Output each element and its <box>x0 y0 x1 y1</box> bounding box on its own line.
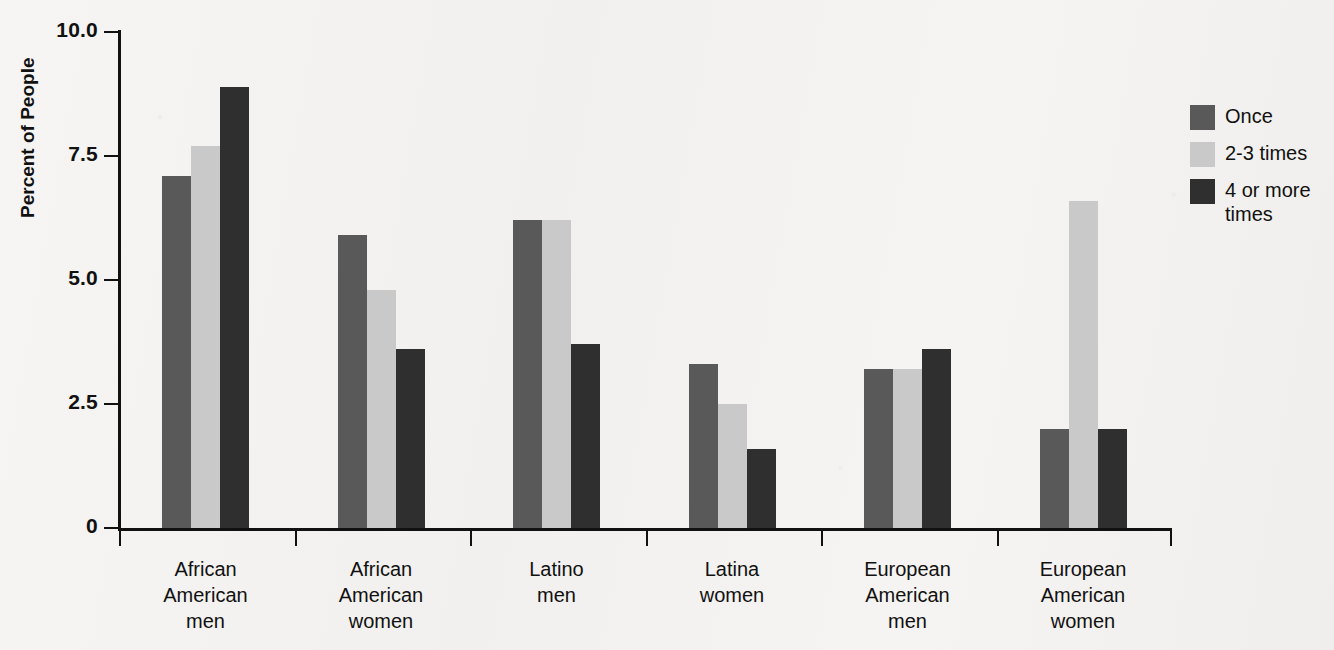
x-axis-category-label-line: Latina <box>642 556 822 582</box>
bar <box>1098 429 1127 528</box>
legend-item: 4 or more times <box>1190 178 1330 226</box>
y-axis-tick-label: 0 <box>86 514 98 538</box>
x-axis-tick <box>119 531 121 546</box>
bar <box>922 349 951 528</box>
bar <box>747 449 776 528</box>
x-axis-tick <box>470 531 472 546</box>
y-axis-tick <box>104 279 119 281</box>
x-axis-tick <box>295 531 297 546</box>
bar <box>513 220 542 528</box>
y-axis-tick-label: 5.0 <box>68 266 98 290</box>
x-axis-category-label-line: American <box>116 582 296 608</box>
bar <box>1040 429 1069 528</box>
x-axis-category-label: Latinomen <box>467 556 647 608</box>
bar <box>1069 201 1098 528</box>
legend-label: 2-3 times <box>1225 141 1307 165</box>
bar <box>542 220 571 528</box>
x-axis-category-label-line: Latino <box>467 556 647 582</box>
x-axis-category-label-line: American <box>993 582 1173 608</box>
bar-chart: Percent of People 10.07.55.02.50 African… <box>0 0 1334 650</box>
bar <box>367 290 396 528</box>
x-axis-category-label: EuropeanAmericanwomen <box>993 556 1173 634</box>
plot-area <box>120 32 1172 528</box>
legend-item: Once <box>1190 104 1330 130</box>
x-axis-category-label-line: African <box>116 556 296 582</box>
y-axis-tick-label: 7.5 <box>68 142 98 166</box>
y-axis-tick <box>104 31 119 33</box>
y-axis-tick-label: 10.0 <box>56 18 98 42</box>
bar <box>718 404 747 528</box>
x-axis-category-label-line: women <box>291 608 471 634</box>
legend-swatch-two_three <box>1190 142 1215 167</box>
x-axis-tick <box>1170 531 1172 546</box>
x-axis-category-label-line: European <box>993 556 1173 582</box>
bar <box>893 369 922 528</box>
legend-swatch-four_plus <box>1190 179 1215 204</box>
bar <box>864 369 893 528</box>
x-axis-category-label-line: African <box>291 556 471 582</box>
x-axis-category-label-line: women <box>642 582 822 608</box>
x-axis-category-label-line: men <box>467 582 647 608</box>
x-axis-category-label: EuropeanAmericanmen <box>818 556 998 634</box>
y-axis-title: Percent of People <box>17 174 39 218</box>
legend-swatch-once <box>1190 105 1215 130</box>
x-axis-category-label-line: American <box>818 582 998 608</box>
bar <box>689 364 718 528</box>
x-axis-category-label: Latinawomen <box>642 556 822 608</box>
y-axis-tick <box>104 155 119 157</box>
bar <box>220 87 249 528</box>
legend-label: Once <box>1225 104 1273 128</box>
y-axis-tick-label: 2.5 <box>68 390 98 414</box>
bar <box>571 344 600 528</box>
x-axis-category-label-line: men <box>818 608 998 634</box>
x-axis-category-label-line: women <box>993 608 1173 634</box>
x-axis-category-label: AfricanAmericanwomen <box>291 556 471 634</box>
x-axis-category-label-line: American <box>291 582 471 608</box>
x-axis-category-label: AfricanAmericanmen <box>116 556 296 634</box>
y-axis-tick <box>104 403 119 405</box>
x-axis-tick <box>997 531 999 546</box>
y-axis-tick <box>104 527 119 529</box>
x-axis-category-label-line: men <box>116 608 296 634</box>
bar <box>162 176 191 528</box>
x-axis-tick <box>821 531 823 546</box>
x-axis-tick <box>646 531 648 546</box>
bar <box>396 349 425 528</box>
legend-item: 2-3 times <box>1190 141 1330 167</box>
x-axis-category-label-line: European <box>818 556 998 582</box>
legend: Once2-3 times4 or more times <box>1190 104 1330 237</box>
legend-label: 4 or more times <box>1225 178 1330 226</box>
bar <box>338 235 367 528</box>
bar <box>191 146 220 528</box>
